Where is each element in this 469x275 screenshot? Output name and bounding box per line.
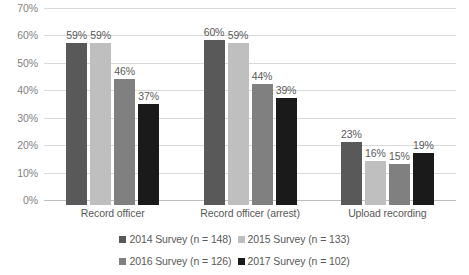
legend-swatch-icon <box>119 258 126 265</box>
bar[interactable] <box>204 40 225 205</box>
bar-value-label: 44% <box>252 70 273 82</box>
y-axis-tick: 40% <box>17 84 38 96</box>
bar-value-label: 46% <box>114 65 135 77</box>
legend-label: 2017 Survey (n = 102) <box>248 255 350 267</box>
legend-label: 2014 Survey (n = 148) <box>129 233 231 245</box>
legend-label: 2015 Survey (n = 133) <box>248 233 350 245</box>
bars-layer: 59%59%46%37%60%59%44%39%23%16%15%19% <box>44 0 456 205</box>
bar[interactable] <box>341 142 362 205</box>
bar[interactable] <box>90 43 111 205</box>
bar-slot: 16% <box>365 5 386 205</box>
y-axis-tick: 20% <box>17 139 38 151</box>
chart-legend: 2014 Survey (n = 148)2015 Survey (n = 13… <box>0 228 469 272</box>
y-axis-tick: 30% <box>17 112 38 124</box>
bar[interactable] <box>114 79 135 205</box>
bar-slot: 59% <box>66 5 87 205</box>
legend-item[interactable]: 2016 Survey (n = 126) <box>119 255 231 267</box>
bar-slot: 59% <box>90 5 111 205</box>
bar-slot: 44% <box>252 5 273 205</box>
legend-item[interactable]: 2014 Survey (n = 148) <box>119 233 231 245</box>
legend-swatch-icon <box>238 258 245 265</box>
bar-slot: 37% <box>138 5 159 205</box>
bar-slot: 59% <box>228 5 249 205</box>
bar[interactable] <box>365 161 386 205</box>
bar-value-label: 16% <box>365 147 386 159</box>
bar-value-label: 60% <box>204 26 225 38</box>
bar[interactable] <box>276 98 297 205</box>
plot-area: 59%59%46%37%60%59%44%39%23%16%15%19% <box>44 0 456 205</box>
x-axis-category-label: Record officer (arrest) <box>181 207 318 219</box>
bar[interactable] <box>252 84 273 205</box>
bar-group: 59%59%46%37% <box>66 0 159 205</box>
bar-value-label: 19% <box>413 139 434 151</box>
bar[interactable] <box>413 153 434 205</box>
legend-swatch-icon <box>238 236 245 243</box>
legend-label: 2016 Survey (n = 126) <box>129 255 231 267</box>
bar-slot: 60% <box>204 5 225 205</box>
bar[interactable] <box>389 164 410 205</box>
bar-value-label: 59% <box>228 29 249 41</box>
y-axis-tick: 60% <box>17 29 38 41</box>
y-axis-tick: 50% <box>17 57 38 69</box>
bar[interactable] <box>228 43 249 205</box>
bar-slot: 39% <box>276 5 297 205</box>
legend-row: 2014 Survey (n = 148)2015 Survey (n = 13… <box>0 228 469 250</box>
bar-slot: 23% <box>341 5 362 205</box>
bar-value-label: 59% <box>66 29 87 41</box>
bar[interactable] <box>138 104 159 205</box>
bar-value-label: 23% <box>341 128 362 140</box>
bar-value-label: 15% <box>389 150 410 162</box>
y-axis-tick: 0% <box>23 194 38 206</box>
grouped-bar-chart: 0%10%20%30%40%50%60%70% 59%59%46%37%60%5… <box>0 0 469 275</box>
x-axis-category-label: Record officer <box>44 207 181 219</box>
y-axis: 0%10%20%30%40%50%60%70% <box>0 0 44 205</box>
x-axis: Record officerRecord officer (arrest)Upl… <box>44 205 456 227</box>
y-axis-tick: 70% <box>17 2 38 14</box>
bar-group: 23%16%15%19% <box>341 0 434 205</box>
bar-slot: 19% <box>413 5 434 205</box>
legend-item[interactable]: 2015 Survey (n = 133) <box>238 233 350 245</box>
bar[interactable] <box>66 43 87 205</box>
bar-slot: 46% <box>114 5 135 205</box>
bar-value-label: 37% <box>138 90 159 102</box>
legend-item[interactable]: 2017 Survey (n = 102) <box>238 255 350 267</box>
y-axis-tick: 10% <box>17 167 38 179</box>
legend-swatch-icon <box>119 236 126 243</box>
bar-group: 60%59%44%39% <box>204 0 297 205</box>
bar-value-label: 39% <box>276 84 297 96</box>
bar-slot: 15% <box>389 5 410 205</box>
bar-value-label: 59% <box>90 29 111 41</box>
x-axis-category-label: Upload recording <box>319 207 456 219</box>
legend-row: 2016 Survey (n = 126)2017 Survey (n = 10… <box>0 250 469 272</box>
